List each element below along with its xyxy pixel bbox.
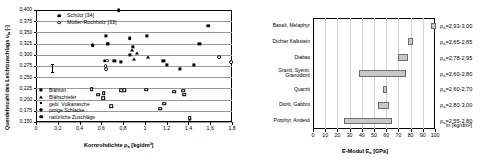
x-tick-label: 1,8 <box>222 126 242 131</box>
data-point-filled-circle <box>91 43 95 47</box>
legend-label: porige Schlacke <box>49 107 85 114</box>
data-point-open-square <box>109 105 113 109</box>
y-tick <box>34 21 37 22</box>
x-tick-label: 100 <box>425 133 445 138</box>
bar-chart-panel: Basalt, MelaphyrDichter KalksteinDiabasG… <box>250 0 500 163</box>
x-tick-label: 1,4 <box>178 126 198 131</box>
y-tick <box>34 88 37 89</box>
range-bar <box>408 38 413 45</box>
y-tick <box>34 10 37 11</box>
x-tick-label: 0 <box>26 126 46 131</box>
small-dot-marker-icon <box>40 102 42 104</box>
density-label: ρa=2,65-2,85 <box>440 39 472 47</box>
density-label: ρa=2,60-2,80 <box>440 71 472 79</box>
data-point-filled-circle <box>128 36 132 40</box>
row-label: Diorit, Gabbro <box>252 102 310 108</box>
data-point-open-square <box>144 88 148 92</box>
y-tick-label: 0,400 <box>2 7 32 12</box>
filled-square-marker-icon <box>39 89 42 92</box>
y-tick <box>34 100 37 101</box>
y-tick-label: 0,325 <box>2 41 32 46</box>
error-bar <box>52 64 53 73</box>
data-point-open-circle <box>104 67 108 71</box>
x-tick-label: 0,4 <box>70 126 90 131</box>
density-label: ρa=2,60-2,70 <box>440 86 472 94</box>
scatter-chart-panel: Querdehnzahl des Leichtzuschlags νla [-]… <box>0 0 250 163</box>
gridline <box>36 66 232 67</box>
data-point-filled-square <box>198 42 201 45</box>
gridline <box>36 77 232 78</box>
legend-label: Müller-Rochholz [33] <box>67 19 116 26</box>
data-point-open-square <box>102 92 106 96</box>
data-point-filled-square <box>165 64 168 67</box>
filled-circle-marker-icon <box>39 115 43 119</box>
y-tick-label: 0,375 <box>2 19 32 24</box>
y-tick <box>34 32 37 33</box>
gridline <box>325 18 326 129</box>
data-point-open-square <box>90 87 94 91</box>
data-point-filled-triangle <box>132 57 136 60</box>
data-point-filled-square <box>162 59 165 62</box>
data-point-filled-circle <box>117 8 121 12</box>
x-tick-label: 1 <box>135 126 155 131</box>
gridline <box>36 44 232 45</box>
row-label: Diabas <box>252 55 310 61</box>
y-tick <box>34 44 37 45</box>
data-point-open-square <box>122 88 126 92</box>
y-tick <box>34 77 37 78</box>
gridline <box>350 18 351 129</box>
y-tick <box>34 111 37 112</box>
data-point-open-square <box>96 93 100 97</box>
data-point-open-square <box>163 102 167 106</box>
density-label: ρa=2,78-2,95 <box>440 55 472 63</box>
y-tick-label: 0,200 <box>2 97 32 102</box>
data-point-open-square <box>158 107 162 111</box>
data-point-open-square <box>172 90 176 94</box>
gridline <box>423 18 424 129</box>
y-tick-label: 0,150 <box>2 119 32 124</box>
data-point-open-square <box>188 117 192 121</box>
range-bar <box>378 102 389 109</box>
gridline <box>337 18 338 129</box>
data-point-filled-triangle <box>135 51 139 54</box>
y-tick <box>34 66 37 67</box>
filled-triangle-marker-icon <box>39 95 43 98</box>
y-tick-label: 0,175 <box>2 108 32 113</box>
y-tick-label: 0,275 <box>2 63 32 68</box>
data-point-filled-circle <box>206 24 210 28</box>
gridline <box>36 55 232 56</box>
row-label: Quarzit <box>252 87 310 93</box>
data-point-open-square <box>181 89 185 93</box>
legend-label: natürliche Zuschläge <box>49 114 95 121</box>
y-tick-label: 0,350 <box>2 30 32 35</box>
legend-label: Blähschiefer <box>49 94 77 101</box>
range-bar <box>398 54 408 61</box>
data-point-filled-square <box>104 34 107 37</box>
data-point-filled-triangle <box>146 55 150 58</box>
data-point-open-square <box>182 93 186 97</box>
gridline <box>36 122 232 123</box>
x-tick-label: 0,6 <box>91 126 111 131</box>
x-tick-label: 0,8 <box>113 126 133 131</box>
x-tick-label: 0,2 <box>48 126 68 131</box>
row-label: Dichter Kalkstein <box>252 39 310 45</box>
legend-label: Schütz [34] <box>67 12 94 19</box>
legend-label: Blähton <box>49 87 66 94</box>
data-point-open-circle <box>105 59 109 63</box>
gridline <box>411 18 412 129</box>
data-point-filled-square <box>119 60 122 63</box>
data-point-filled-square <box>178 68 181 71</box>
data-point-filled-square <box>145 34 148 37</box>
data-point-filled-square <box>128 54 131 57</box>
density-label: ρa=2,93-3,00 <box>440 23 472 31</box>
figure-root: Querdehnzahl des Leichtzuschlags νla [-]… <box>0 0 500 163</box>
filled-circle-marker-icon <box>57 14 61 18</box>
open-circle-marker-icon <box>57 21 61 25</box>
density-label: ρa=2,80-3,00 <box>440 102 472 110</box>
density-unit-note: in [kg/dm³] <box>446 122 472 128</box>
x-tick-label: 1,2 <box>157 126 177 131</box>
y-tick <box>34 55 37 56</box>
range-bar <box>359 70 405 77</box>
data-point-open-circle <box>217 55 221 59</box>
data-point-filled-square <box>113 59 116 62</box>
